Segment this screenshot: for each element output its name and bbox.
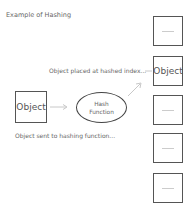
source-object-box: Object [15,91,47,123]
empty-slot-dash [162,31,174,32]
hash-slot-0 [153,16,183,46]
caption-placed: Object placed at hashed index... [49,67,146,74]
hash-slot-2 [153,95,183,125]
empty-slot-dash [162,188,174,189]
caption-sent: Object sent to hashing function... [15,132,115,139]
hash-function-line1: Hash [94,100,109,108]
empty-slot-dash [162,148,174,149]
arrow-to-slot [128,84,140,96]
hash-slot-3 [153,133,183,163]
hash-slot-1: Object [153,56,183,86]
hash-slot-4 [153,173,183,203]
slot-object-label: Object [153,66,182,76]
source-object-label: Object [16,102,45,112]
hash-function-line2: Function [89,108,114,116]
empty-slot-dash [162,110,174,111]
hash-function-ellipse: Hash Function [76,92,127,123]
